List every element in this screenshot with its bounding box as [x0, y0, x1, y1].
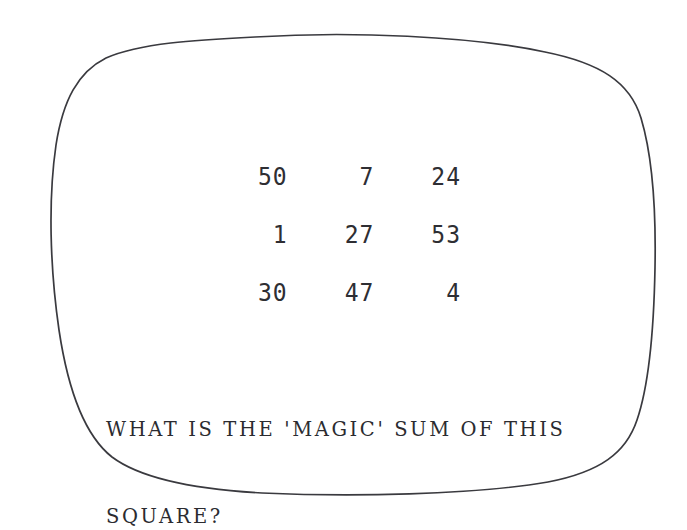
magic-square-cell-r0c0: 50 — [213, 165, 300, 189]
magic-square-grid: 50 7 24 1 27 53 30 47 4 — [213, 148, 467, 322]
magic-square-cell-r1c1: 27 — [300, 223, 387, 247]
magic-square-cell-r2c0: 30 — [213, 281, 300, 305]
table-row: 30 47 4 — [213, 264, 467, 322]
table-row: 1 27 53 — [213, 206, 467, 264]
question-prompt-line-1: WHAT IS THE 'MAGIC' SUM OF THIS — [106, 415, 566, 444]
question-prompt-line-2: SQUARE? — [106, 502, 566, 530]
magic-square-cell-r2c2: 4 — [386, 281, 467, 305]
magic-square-cell-r0c1: 7 — [300, 165, 387, 189]
magic-square-cell-r0c2: 24 — [386, 165, 467, 189]
magic-square-cell-r1c0: 1 — [213, 223, 300, 247]
magic-square-cell-r2c1: 47 — [300, 281, 387, 305]
magic-square-cell-r1c2: 53 — [386, 223, 467, 247]
question-prompt: WHAT IS THE 'MAGIC' SUM OF THIS SQUARE? — [106, 357, 566, 530]
table-row: 50 7 24 — [213, 148, 467, 206]
